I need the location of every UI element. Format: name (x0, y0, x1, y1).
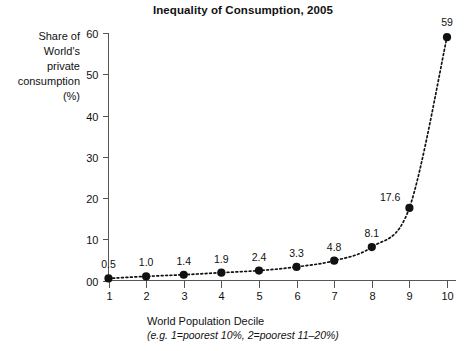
data-point (142, 272, 150, 280)
data-point (180, 271, 188, 279)
data-point-label: 3.3 (289, 247, 304, 259)
y-axis-label-line: private (47, 60, 80, 72)
data-point (368, 243, 376, 251)
data-point-labels: 0.51.01.41.92.43.34.88.117.659 (101, 16, 453, 270)
consumption-curve (109, 37, 448, 278)
x-tick-label: 9 (406, 290, 412, 302)
data-point-label: 1.0 (139, 256, 154, 268)
data-point-label: 4.8 (327, 241, 342, 253)
y-tick-label: 30 (86, 152, 98, 164)
x-axis-title: World Population Decile (147, 315, 264, 327)
y-tick-label: 50 (86, 69, 98, 81)
data-point (330, 257, 338, 265)
x-tick-label: 3 (181, 290, 187, 302)
data-point (217, 269, 225, 277)
data-point (255, 267, 263, 275)
y-tick-label: 00 (86, 276, 98, 288)
chart-canvas: Inequality of Consumption, 2005 Share of… (0, 0, 471, 351)
y-tick-label: 10 (86, 234, 98, 246)
chart-title: Inequality of Consumption, 2005 (153, 4, 334, 16)
y-axis-label: Share ofWorld'sprivateconsumption(%) (18, 30, 81, 102)
y-axis-label-line: consumption (18, 75, 80, 87)
data-point (104, 274, 112, 282)
y-axis-label-line: World's (44, 45, 81, 57)
data-point (292, 263, 300, 271)
x-tick-label: 1 (106, 290, 112, 302)
y-axis-label-line: Share of (38, 30, 81, 42)
y-tick-label: 40 (86, 111, 98, 123)
y-axis: 00102030405060 (86, 28, 108, 288)
x-axis-subtitle: (e.g. 1=poorest 10%, 2=poorest 11–20%) (147, 329, 339, 341)
x-tick-label: 5 (256, 290, 262, 302)
y-tick-label: 60 (86, 28, 98, 40)
x-tick-label: 4 (218, 290, 224, 302)
x-tick-label: 10 (441, 290, 453, 302)
data-point (443, 33, 451, 41)
data-point-label: 2.4 (252, 251, 267, 263)
consumption-inequality-chart: Inequality of Consumption, 2005 Share of… (0, 0, 471, 351)
data-point-label: 1.4 (176, 255, 191, 267)
x-tick-label: 8 (369, 290, 375, 302)
x-tick-label: 6 (294, 290, 300, 302)
data-point-label: 17.6 (380, 191, 401, 203)
data-point-label: 0.5 (101, 258, 116, 270)
y-tick-label: 20 (86, 193, 98, 205)
data-points (104, 33, 451, 283)
x-tick-label: 2 (143, 290, 149, 302)
x-tick-label: 7 (331, 290, 337, 302)
y-axis-label-line: (%) (63, 90, 80, 102)
data-point-label: 59 (441, 16, 453, 28)
x-axis: 12345678910 (106, 281, 456, 302)
data-point-label: 8.1 (364, 227, 379, 239)
data-point (405, 204, 413, 212)
data-point-label: 1.9 (214, 253, 229, 265)
